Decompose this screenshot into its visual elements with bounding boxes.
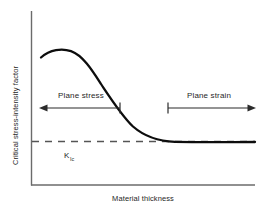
- kic-label-subscript: Ic: [70, 156, 74, 162]
- plane-strain-label: Plane strain: [187, 91, 231, 100]
- x-axis-title: Material thickness: [112, 194, 174, 203]
- plane-strain-arrowhead-icon: [248, 105, 257, 112]
- fracture-toughness-figure: Plane stress Plane strain K Ic Critical …: [0, 0, 264, 210]
- plane-strain-annotation: Plane strain: [168, 91, 256, 114]
- y-axis-title: Critical stress-intensity factor: [11, 66, 20, 165]
- plane-stress-label: Plane stress: [58, 91, 104, 100]
- kic-label: K Ic: [64, 151, 74, 162]
- plane-stress-arrowhead-icon: [39, 105, 48, 112]
- chart-canvas: Plane stress Plane strain K Ic Critical …: [0, 0, 264, 210]
